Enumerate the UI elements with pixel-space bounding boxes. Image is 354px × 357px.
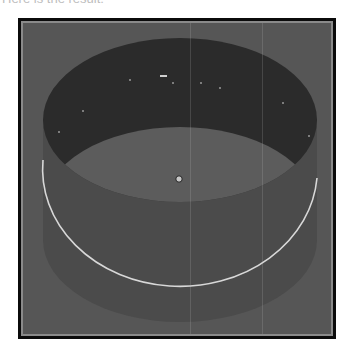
speck — [200, 82, 202, 84]
speck — [160, 75, 167, 77]
guide-line — [190, 23, 191, 334]
speck — [308, 135, 310, 137]
speck — [172, 82, 174, 84]
speck — [282, 102, 284, 104]
caption-text: Here is the result: — [2, 0, 104, 6]
cylinder-render — [23, 23, 331, 334]
viewport-frame — [18, 18, 336, 339]
viewport-inset-border — [21, 21, 333, 336]
3d-viewport[interactable] — [23, 23, 331, 334]
speck — [82, 110, 84, 112]
speck — [129, 79, 131, 81]
speck — [58, 131, 60, 133]
speck — [219, 87, 221, 89]
pivot-point-icon[interactable] — [176, 176, 182, 182]
guide-line — [262, 23, 263, 334]
